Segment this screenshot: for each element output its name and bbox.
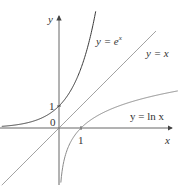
- identity-line: [2, 31, 156, 185]
- ln-label-text: y = ln x: [130, 110, 164, 122]
- exp-label-sup: x: [119, 34, 122, 42]
- plot-area: [0, 0, 183, 187]
- origin-label: 0: [50, 117, 56, 128]
- x-tick-label-1: 1: [78, 135, 84, 146]
- exp-curve-label: y = ex: [96, 35, 122, 47]
- function-graph: y x 0 1 1 y = ex y = x y = ln x: [0, 0, 183, 187]
- y-axis-label: y: [48, 14, 53, 25]
- identity-line-label: y = x: [146, 48, 169, 59]
- x-axis-label: x: [165, 135, 170, 146]
- exp-label-text: y = e: [96, 35, 119, 47]
- ln-curve-label: y = ln x: [130, 111, 164, 122]
- y-tick-label-1: 1: [49, 101, 55, 112]
